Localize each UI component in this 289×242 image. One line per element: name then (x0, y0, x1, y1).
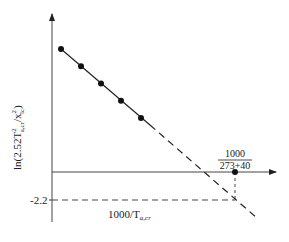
y-axis-label-sup: 2 (10, 128, 18, 132)
x-axis-label-main: 1000/T (108, 208, 140, 220)
data-point (138, 115, 144, 121)
annotation-denominator: 273+40 (220, 160, 251, 171)
y-axis-label-sup2: 2 (10, 109, 18, 113)
y-tick-label: -2.2 (30, 194, 47, 206)
y-axis-label: ln(2.52T2a,cr/x2lc) (10, 105, 26, 170)
data-point (58, 46, 64, 52)
y-axis-label-end: ) (11, 105, 24, 109)
arrhenius-diagram: -2.2 1000/Ta,cr 1000 273+40 ln(2.52T2a,c… (0, 0, 289, 242)
data-point (118, 98, 124, 104)
x-axis-label: 1000/Ta,cr (108, 208, 151, 222)
annotation-numerator: 1000 (225, 148, 245, 159)
data-point (98, 81, 104, 87)
fit-line-solid (61, 49, 150, 125)
y-axis-label-main: ln(2.52T (11, 132, 24, 170)
x-axis-label-sub: a,cr (140, 214, 151, 222)
data-point (78, 63, 84, 69)
